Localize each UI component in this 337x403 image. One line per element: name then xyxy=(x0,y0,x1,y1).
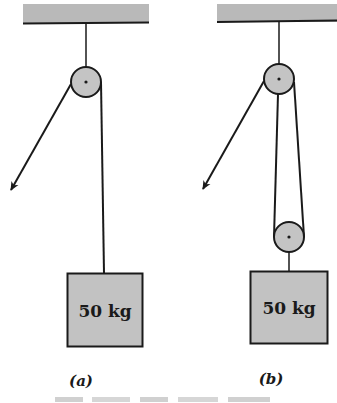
block-a: 50 kg xyxy=(68,274,143,347)
panel-a-label: (a) xyxy=(69,372,93,390)
block-b-mass-label: 50 kg xyxy=(262,298,315,318)
ceiling-a xyxy=(23,4,149,24)
block-b: 50 kg xyxy=(251,272,328,344)
panel-b: 50 kg (b) xyxy=(203,4,337,388)
fixed-pulley-b xyxy=(264,64,294,94)
rope-strand-right-b xyxy=(294,82,304,237)
pulley-diagram: 50 kg (a) 50 kg ( xyxy=(0,0,337,403)
panel-a: 50 kg (a) xyxy=(11,4,149,390)
pulley-a xyxy=(71,67,101,97)
block-a-mass-label: 50 kg xyxy=(78,301,131,321)
load-rope-a xyxy=(101,82,104,273)
panel-b-label: (b) xyxy=(259,370,284,388)
ceiling-b xyxy=(217,4,337,22)
movable-pulley-axle-b xyxy=(287,235,290,238)
pulley-axle-a xyxy=(84,80,87,83)
pull-arrow-b xyxy=(203,81,264,189)
movable-pulley-b xyxy=(274,222,304,252)
pull-arrow-a xyxy=(11,84,71,190)
fixed-pulley-axle-b xyxy=(277,77,280,80)
rope-strand-left-b xyxy=(274,94,278,237)
figure-caption xyxy=(55,397,270,402)
